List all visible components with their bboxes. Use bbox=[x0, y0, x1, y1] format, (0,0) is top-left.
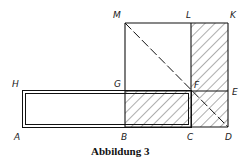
label-l: L bbox=[186, 10, 191, 20]
label-e: E bbox=[232, 87, 238, 97]
geometry-figure: M L K H G F E A B C D Abbildung 3 bbox=[0, 0, 251, 165]
hatched-region-right bbox=[191, 23, 228, 127]
label-h: H bbox=[12, 79, 19, 89]
figure-caption: Abbildung 3 bbox=[91, 145, 150, 157]
label-f: F bbox=[194, 80, 200, 90]
label-m: M bbox=[113, 10, 121, 20]
label-g: G bbox=[114, 79, 121, 89]
label-d: D bbox=[225, 132, 232, 142]
label-c: C bbox=[187, 132, 194, 142]
hatched-region-middle bbox=[125, 91, 191, 127]
label-k: K bbox=[230, 10, 237, 20]
label-b: B bbox=[121, 132, 127, 142]
label-a: A bbox=[13, 132, 20, 142]
